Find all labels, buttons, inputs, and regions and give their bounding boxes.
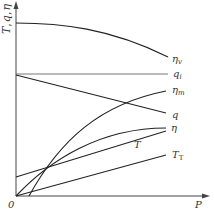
label-eta-m: ηm: [172, 84, 185, 97]
curve-eta-m: [29, 91, 166, 196]
curve-T: [16, 131, 166, 177]
y-axis-label: T,q,η: [0, 4, 13, 34]
label-eta: η: [171, 122, 177, 133]
y-axis-arrow-icon: [14, 1, 19, 9]
label-q-i: qi: [173, 68, 182, 81]
curve-eta-v: [16, 23, 168, 57]
label-T-T: TT: [172, 149, 184, 162]
x-axis-label: P: [194, 199, 202, 210]
origin-label: 0: [8, 199, 15, 210]
curve-q: [16, 75, 166, 113]
label-q: q: [172, 109, 178, 120]
label-T: T: [134, 139, 142, 150]
x-axis-arrow-icon: [202, 194, 210, 199]
chart: T,q,η 0 P ηv qi q ηm η T TT: [0, 0, 214, 213]
label-eta-v: ηv: [172, 53, 182, 66]
